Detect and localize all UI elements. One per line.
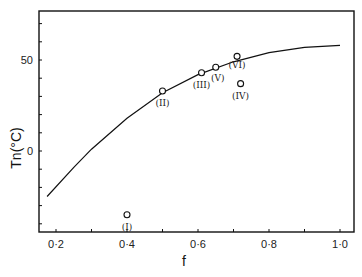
data-point <box>238 81 244 87</box>
fit-curve <box>47 45 340 196</box>
data-point <box>124 212 130 218</box>
plot-frame <box>39 11 354 232</box>
point-label: (II) <box>155 98 169 108</box>
point-label: (III) <box>193 80 211 90</box>
point-label: (I) <box>122 222 133 232</box>
y-tick-label: 0 <box>27 145 33 157</box>
y-tick-label: 50 <box>21 54 33 66</box>
y-axis-label: Tn(°C) <box>8 118 24 178</box>
point-label: (VI) <box>229 60 246 70</box>
x-tick-label: 0·8 <box>261 238 277 250</box>
point-label: (V) <box>211 73 225 83</box>
x-axis-label: f <box>182 253 186 269</box>
data-point <box>160 88 166 94</box>
point-label: (IV) <box>232 91 249 101</box>
x-tick-label: 1·0 <box>332 238 348 250</box>
x-tick-label: 0·4 <box>119 238 135 250</box>
x-tick-label: 0·6 <box>190 238 206 250</box>
data-point <box>234 53 240 59</box>
chart: 0·20·40·60·81·0050(I)(II)(III)(V)(VI)(IV… <box>0 0 362 277</box>
data-point <box>213 64 219 70</box>
data-point <box>199 70 205 76</box>
x-tick-label: 0·2 <box>48 238 64 250</box>
